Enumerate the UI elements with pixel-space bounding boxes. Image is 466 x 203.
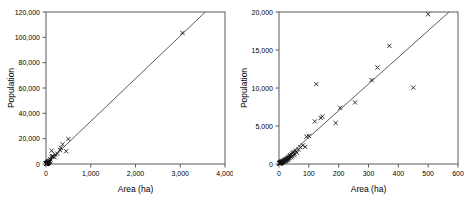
y-tick-label: 0 bbox=[36, 161, 40, 168]
data-point-marker bbox=[319, 116, 323, 120]
plot-frame bbox=[279, 12, 458, 164]
regression-line bbox=[46, 12, 205, 164]
data-point-marker bbox=[411, 86, 415, 90]
chart-panel-left: 01,0002,0003,0004,000020,00040,00060,000… bbox=[0, 0, 233, 203]
data-point-marker bbox=[49, 149, 53, 153]
regression-line bbox=[279, 12, 449, 164]
data-point-marker bbox=[334, 121, 338, 125]
plot-area: 01,0002,0003,0004,000020,00040,00060,000… bbox=[0, 0, 233, 203]
x-tick-label: 100 bbox=[303, 170, 315, 177]
x-tick-label: 300 bbox=[363, 170, 375, 177]
data-point-marker bbox=[314, 82, 318, 86]
plot-area: 010020030040050060005,00010,00015,00020,… bbox=[233, 0, 466, 203]
data-point-marker bbox=[387, 44, 391, 48]
x-tick-label: 2,000 bbox=[127, 170, 145, 177]
data-point-marker bbox=[64, 149, 68, 153]
chart-panel-right: 010020030040050060005,00010,00015,00020,… bbox=[233, 0, 466, 203]
y-tick-label: 10,000 bbox=[252, 85, 274, 92]
y-tick-label: 40,000 bbox=[19, 110, 41, 117]
y-tick-label: 5,000 bbox=[255, 123, 273, 130]
plot-frame bbox=[46, 12, 225, 164]
x-tick-label: 1,000 bbox=[82, 170, 100, 177]
data-point-marker bbox=[426, 12, 430, 16]
data-point-marker bbox=[303, 145, 307, 149]
y-tick-label: 120,000 bbox=[15, 9, 40, 16]
x-tick-label: 3,000 bbox=[171, 170, 189, 177]
data-points bbox=[277, 12, 430, 166]
y-tick-label: 20,000 bbox=[19, 135, 41, 142]
x-axis-title: Area (ha) bbox=[118, 184, 154, 194]
y-axis: 05,00010,00015,00020,000 bbox=[252, 9, 279, 168]
data-point-marker bbox=[313, 119, 317, 123]
x-axis-title: Area (ha) bbox=[351, 184, 387, 194]
x-tick-label: 600 bbox=[452, 170, 464, 177]
data-point-marker bbox=[66, 137, 70, 141]
x-tick-label: 200 bbox=[333, 170, 345, 177]
x-tick-label: 400 bbox=[392, 170, 404, 177]
data-point-marker bbox=[375, 65, 379, 69]
x-tick-label: 0 bbox=[44, 170, 48, 177]
x-axis: 0100200300400500600 bbox=[277, 164, 464, 177]
y-tick-label: 0 bbox=[269, 161, 273, 168]
scatter-plot-figure: 01,0002,0003,0004,000020,00040,00060,000… bbox=[0, 0, 466, 203]
x-tick-label: 500 bbox=[422, 170, 434, 177]
y-axis: 020,00040,00060,00080,000100,000120,000 bbox=[15, 9, 46, 168]
y-tick-label: 15,000 bbox=[252, 47, 274, 54]
y-axis-title: Population bbox=[239, 68, 249, 108]
x-tick-label: 4,000 bbox=[216, 170, 233, 177]
x-axis: 01,0002,0003,0004,000 bbox=[44, 164, 233, 177]
y-tick-label: 60,000 bbox=[19, 85, 41, 92]
y-tick-label: 100,000 bbox=[15, 34, 40, 41]
x-tick-label: 0 bbox=[277, 170, 281, 177]
y-tick-label: 80,000 bbox=[19, 59, 41, 66]
data-point-marker bbox=[353, 100, 357, 104]
y-axis-title: Population bbox=[6, 68, 16, 108]
y-tick-label: 20,000 bbox=[252, 9, 274, 16]
